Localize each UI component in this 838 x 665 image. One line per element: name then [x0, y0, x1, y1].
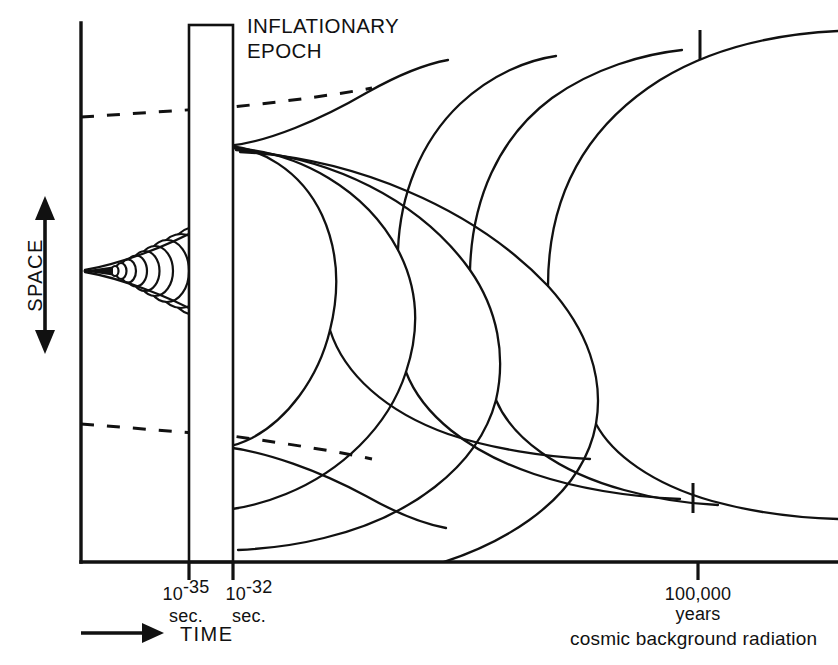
text-label-group: INFLATIONARY EPOCH SPACE TIME 10-35 sec.…	[24, 14, 817, 649]
tick-label-10e-32-base: 10	[225, 584, 245, 604]
inflationary-epoch-label-line2: EPOCH	[247, 39, 322, 62]
tick-label-10e-35-base: 10	[162, 584, 182, 604]
time-axis-label: TIME	[180, 623, 233, 645]
space-arrow-head-up	[35, 196, 55, 220]
tick-label-100000: 100,000	[665, 584, 731, 604]
expansion-arc-group	[226, 31, 838, 576]
light-cone-arc-4	[240, 152, 598, 576]
light-cone-arc-1-lower-return	[330, 330, 590, 459]
light-cone-arc-1	[226, 146, 336, 447]
space-axis-label: SPACE	[24, 238, 46, 311]
tick-label-10e-35: 10-35	[162, 577, 209, 604]
light-cone-arc-3-upper	[470, 50, 682, 270]
space-arrow-head-down	[35, 330, 55, 354]
tick-label-10e-35-exponent: -35	[183, 577, 210, 597]
tick-label-10e-32: 10-32	[225, 577, 272, 604]
figure-root: INFLATIONARY EPOCH SPACE TIME 10-35 sec.…	[0, 0, 838, 665]
band-outline	[189, 25, 233, 562]
tick-unit-10e-32: sec.	[232, 606, 266, 626]
cbr-event-ticks	[693, 30, 700, 513]
inflationary-epoch-band	[189, 25, 233, 562]
light-cone-arc-1-lower	[226, 447, 446, 528]
tick-unit-100000: years	[675, 604, 720, 624]
inflationary-epoch-label-line1: INFLATIONARY	[247, 14, 399, 37]
light-cone-arc-2-upper	[398, 56, 556, 250]
cosmic-background-radiation-caption: cosmic background radiation	[570, 628, 817, 649]
tick-unit-10e-35: sec.	[169, 606, 203, 626]
cosmology-diagram: INFLATIONARY EPOCH SPACE TIME 10-35 sec.…	[0, 0, 838, 665]
light-cone-arc-4-upper	[548, 31, 838, 286]
light-cone-arc-2-lower	[406, 372, 680, 499]
time-arrow-head	[142, 623, 164, 643]
light-cone-arc-2	[232, 148, 415, 509]
light-cone-arc-1-upper	[228, 60, 448, 146]
time-axis-arrow	[81, 623, 164, 643]
tick-label-10e-32-exponent: -32	[246, 577, 273, 597]
